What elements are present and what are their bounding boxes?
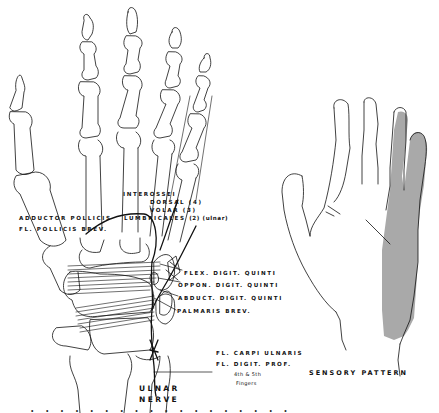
sensory-pattern-title: SENSORY PATTERN [309, 370, 408, 377]
label-fl-digit-prof: FL. DIGIT. PROF. [216, 362, 292, 368]
label-fingers: Fingers [236, 381, 257, 386]
label-fl-carpi-ulnaris: FL. CARPI ULNARIS [216, 351, 303, 357]
ulnar-nerve-figure: INTEROSSEI DORSAL (4) VOLAR (3) LUMBRICA… [0, 0, 439, 413]
label-lumbricales: LUMBRICALES (2) (ulnar) [124, 216, 228, 222]
label-adductor-pollicis: ADDUCTOR POLLICIS [19, 216, 112, 222]
label-flex-digit-quinti: FLEX. DIGIT. QUINTI [184, 271, 276, 277]
label-4th-5th: 4th & 5th [234, 372, 261, 377]
label-palmaris-brev: PALMARIS BREV. [177, 309, 251, 315]
label-ulnar: ULNAR [139, 385, 180, 393]
label-volar: VOLAR (3) [150, 208, 197, 214]
label-fl-pollicis-brev: FL. POLLICIS BREV. [19, 227, 108, 233]
label-abduct-digit-quinti: ABDUCT. DIGIT. QUINTI [178, 296, 283, 302]
ulnar-sensory-shade [382, 111, 427, 340]
label-lumbricales-note: (2) (ulnar) [189, 215, 228, 221]
label-dorsal: DORSAL (4) [150, 200, 203, 206]
label-oppon-digit-quinti: OPPON. DIGIT. QUINTI [178, 283, 279, 289]
label-lumbricales-main: LUMBRICALES [124, 215, 186, 221]
label-nerve: NERVE [139, 396, 179, 404]
caption-fragment: · · · · · · · · · · · · · · · · · · [30, 405, 430, 413]
label-interossei: INTEROSSEI [123, 192, 176, 198]
